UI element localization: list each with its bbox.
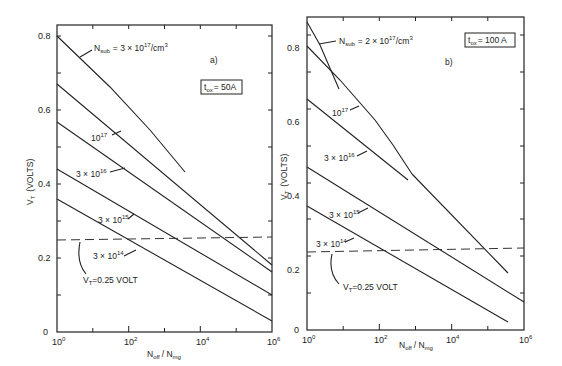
svg-text:102: 102 bbox=[124, 336, 138, 347]
chart-figure: 0 0.2 0.4 0.6 0.8 100 102 104 106 Noff/ … bbox=[0, 0, 562, 366]
panel-a-y-ticks bbox=[57, 36, 272, 295]
panel-b-vt-leader bbox=[331, 254, 339, 284]
panel-b-ytick-0.2: 0.2 bbox=[287, 265, 300, 275]
panel-a-ytick-0.6: 0.6 bbox=[38, 105, 51, 115]
panel-a-x-ticks bbox=[93, 25, 236, 332]
panel-b-leader-1e17 bbox=[350, 106, 359, 110]
panel-a-ytick-0.8: 0.8 bbox=[38, 31, 51, 41]
panel-b-curve-label-1e17: 1017 bbox=[332, 107, 349, 118]
panel-b-curve-label-3e14: 3 × 1014 bbox=[316, 238, 347, 249]
panel-b-y-ticks bbox=[307, 35, 524, 293]
svg-text:102: 102 bbox=[374, 334, 388, 345]
panel-a-ytick-0.2: 0.2 bbox=[38, 253, 51, 263]
panel-b-curve-2e17 bbox=[307, 22, 339, 89]
panel-a-xtick-labels: 100 102 104 106 bbox=[52, 336, 281, 347]
panel-a-curve-3e15 bbox=[57, 169, 272, 295]
panel-a-curve-label-3e14: 3 × 1014 bbox=[93, 250, 124, 261]
panel-b-nsub-leader bbox=[319, 41, 336, 44]
panel-b-ytick-0.6: 0.6 bbox=[287, 117, 300, 127]
svg-text:104: 104 bbox=[196, 336, 210, 347]
panel-a-vt-leader bbox=[79, 242, 86, 274]
panel-a-curve-3e16 bbox=[57, 122, 272, 272]
panel-b-vt-label: VT=0.25 VOLT bbox=[343, 282, 398, 293]
panel-a-xlabel: Noff/ Nmg bbox=[147, 349, 181, 360]
panel-b: 0 0.2 0.4 0.6 0.8 100 102 104 106 Noff/ … bbox=[279, 17, 533, 351]
panel-a-curve-3e14 bbox=[57, 199, 272, 321]
panel-b-curve-3e14 bbox=[307, 206, 508, 322]
panel-a-ytick-0.4: 0.4 bbox=[38, 179, 51, 189]
panel-b-nsub-label: Nsub= 2 × 1017/cm3 bbox=[339, 35, 413, 47]
panel-a-curve-3e17 bbox=[57, 36, 185, 172]
panel-a-leader-3e15 bbox=[128, 214, 134, 219]
panel-b-frame bbox=[307, 17, 524, 330]
svg-text:104: 104 bbox=[446, 334, 460, 345]
svg-text:106: 106 bbox=[267, 336, 281, 347]
panel-a: 0 0.2 0.4 0.6 0.8 100 102 104 106 Noff/ … bbox=[25, 25, 281, 360]
panel-b-leader-3e16 bbox=[357, 151, 367, 156]
panel-a-ytick-0: 0 bbox=[43, 327, 48, 337]
panel-b-curve-label-3e15: 3 × 1015 bbox=[329, 209, 360, 220]
panel-a-curve-label-3e15: 3 × 1015 bbox=[98, 214, 129, 225]
panel-b-label: b) bbox=[445, 57, 453, 67]
panel-a-curve-label-1e17: 1017 bbox=[91, 132, 108, 143]
panel-a-vt-label: VT=0.25 VOLT bbox=[83, 275, 138, 286]
panel-b-xlabel: Noff/ Nmg bbox=[399, 340, 433, 351]
svg-text:100: 100 bbox=[302, 334, 316, 345]
panel-a-curve-label-3e16: 3 × 1016 bbox=[76, 168, 107, 179]
svg-text:106: 106 bbox=[519, 334, 533, 345]
panel-b-curve-1e17-tail bbox=[412, 174, 508, 273]
panel-a-label: a) bbox=[210, 55, 218, 65]
panel-b-curve-label-3e16: 3 × 1016 bbox=[324, 152, 355, 163]
panel-a-leader-3e14 bbox=[124, 250, 136, 256]
panel-b-ytick-0: 0 bbox=[294, 325, 299, 335]
panel-a-nsub-label: Nsub= 3 × 1017/cm3 bbox=[94, 42, 168, 54]
panel-a-ylabel: VT(VOLTS) bbox=[25, 159, 36, 205]
panel-b-curve-3e15 bbox=[307, 167, 524, 302]
panel-a-nsub-leader bbox=[80, 50, 92, 57]
svg-text:100: 100 bbox=[52, 336, 66, 347]
panel-b-ytick-0.8: 0.8 bbox=[287, 43, 300, 53]
panel-b-curve-3e16 bbox=[307, 99, 408, 180]
panel-a-leader-3e16 bbox=[110, 168, 125, 172]
panel-b-ylabel: VT(VOLTS) bbox=[279, 154, 290, 200]
